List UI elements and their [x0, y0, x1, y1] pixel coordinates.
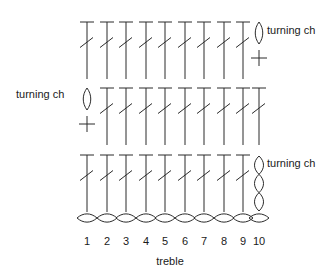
treble-stitch-symbol — [100, 22, 114, 79]
treble-stitch-symbol — [197, 88, 211, 145]
treble-stitch-symbol — [236, 155, 250, 212]
treble-stitch-symbol — [178, 88, 192, 145]
turning-chain-symbol — [79, 88, 95, 132]
row-2-middle — [79, 88, 266, 145]
treble-stitch-symbol — [252, 88, 266, 145]
foundation-chain-link — [155, 214, 175, 222]
crochet-stitch-chart: turning chturning chturning ch1234567891… — [0, 0, 334, 277]
chain-oval — [255, 193, 264, 211]
treble-stitch-symbol — [139, 22, 153, 79]
treble-stitch-symbol — [236, 22, 250, 79]
turning-ch-bottom-right: turning ch — [267, 158, 315, 169]
stitch-number-5: 5 — [162, 236, 168, 247]
stitch-number-4: 4 — [143, 236, 149, 247]
treble-stitch-symbol — [158, 22, 172, 79]
foundation-chain-link — [194, 214, 214, 222]
row-1-bottom — [80, 155, 264, 212]
treble-stitch-symbol — [197, 22, 211, 79]
treble-stitch-symbol — [217, 155, 231, 212]
treble-stitch-symbol — [178, 155, 192, 212]
treble-stitch-symbol — [100, 155, 114, 212]
treble-stitch-symbol — [197, 155, 211, 212]
chain-oval — [255, 174, 264, 192]
foundation-chain-link — [77, 214, 97, 222]
stitch-number-2: 2 — [104, 236, 110, 247]
treble-stitch-symbol — [217, 22, 231, 79]
chain-oval — [255, 156, 264, 174]
stitch-number-9: 9 — [240, 236, 246, 247]
chain-oval — [83, 88, 91, 110]
turning-chain-symbol — [251, 22, 267, 66]
foundation-chain — [77, 214, 269, 222]
turning-chain-symbol — [255, 156, 264, 211]
stitch-number-8: 8 — [221, 236, 227, 247]
treble-stitch-symbol — [80, 155, 94, 212]
stitch-number-1: 1 — [84, 236, 90, 247]
foundation-chain-link — [233, 214, 253, 222]
foundation-chain-link — [97, 214, 117, 222]
stitch-number-3: 3 — [123, 236, 129, 247]
foundation-chain-link — [249, 214, 269, 222]
treble-stitch-symbol — [217, 88, 231, 145]
treble-stitch-symbol — [139, 88, 153, 145]
foundation-chain-link — [136, 214, 156, 222]
treble-stitch-symbol — [119, 22, 133, 79]
foundation-chain-link — [175, 214, 195, 222]
treble-stitch-symbol — [80, 22, 94, 79]
row-3-top — [80, 22, 267, 79]
treble-stitch-symbol — [139, 155, 153, 212]
chain-oval — [255, 22, 263, 44]
foundation-chain-link — [214, 214, 234, 222]
treble-stitch-symbol — [158, 155, 172, 212]
turning-ch-middle-left: turning ch — [16, 89, 64, 100]
treble-stitch-symbol — [178, 22, 192, 79]
treble-stitch-symbol — [158, 88, 172, 145]
stitch-number-10: 10 — [253, 236, 265, 247]
stitch-number-6: 6 — [182, 236, 188, 247]
chart-caption: treble — [156, 256, 184, 267]
foundation-chain-link — [116, 214, 136, 222]
treble-stitch-symbol — [119, 155, 133, 212]
treble-stitch-symbol — [236, 88, 250, 145]
treble-stitch-symbol — [100, 88, 114, 145]
treble-stitch-symbol — [119, 88, 133, 145]
turning-ch-top-right: turning ch — [267, 25, 315, 36]
stitch-number-7: 7 — [201, 236, 207, 247]
